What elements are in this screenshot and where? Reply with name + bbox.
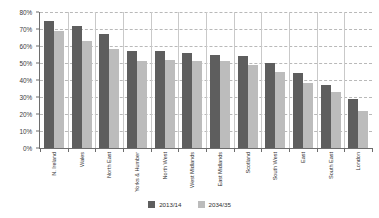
bar bbox=[72, 26, 82, 148]
x-axis-category-label: London bbox=[344, 152, 372, 196]
x-axis-category-label: South East bbox=[317, 152, 345, 196]
bar bbox=[348, 99, 358, 148]
y-axis-tick-label: 80% bbox=[20, 9, 33, 16]
x-axis-category-label: West Midlands bbox=[178, 152, 206, 196]
legend-label: 2034/35 bbox=[209, 201, 231, 208]
category-label-text: London bbox=[355, 152, 361, 170]
bar bbox=[238, 56, 248, 148]
category-label-text: South East bbox=[328, 152, 334, 179]
chart-legend: 2013/142034/35 bbox=[0, 197, 379, 211]
y-axis-tick-label: 40% bbox=[20, 77, 33, 84]
plot-area bbox=[40, 12, 372, 148]
x-axis-category-label: Yorks & Humber bbox=[123, 152, 151, 196]
legend-swatch-icon bbox=[198, 201, 205, 208]
bar-group bbox=[40, 12, 68, 148]
bar-chart: 80%70%60%50%40%30%20%10%0% N. IrelandWal… bbox=[0, 0, 379, 218]
bar bbox=[165, 60, 175, 148]
y-axis-line bbox=[39, 12, 40, 149]
bar bbox=[127, 51, 137, 148]
bar-groups bbox=[40, 12, 372, 148]
bar bbox=[358, 111, 368, 148]
x-axis-tick-mark bbox=[372, 148, 373, 152]
bar bbox=[331, 92, 341, 148]
bar-group bbox=[261, 12, 289, 148]
bar-group bbox=[123, 12, 151, 148]
category-label-text: South West bbox=[272, 152, 278, 180]
x-axis-category-label: North East bbox=[95, 152, 123, 196]
bar bbox=[99, 34, 109, 148]
legend-label: 2013/14 bbox=[159, 201, 181, 208]
y-axis-tick-label: 30% bbox=[20, 94, 33, 101]
category-label-text: Scotland bbox=[245, 152, 251, 173]
bar bbox=[275, 72, 285, 149]
bar bbox=[321, 85, 331, 148]
bar-group bbox=[289, 12, 317, 148]
category-label-text: Wales bbox=[79, 152, 85, 167]
bar bbox=[192, 61, 202, 148]
bar bbox=[44, 21, 54, 149]
bar-group bbox=[95, 12, 123, 148]
category-label-text: North West bbox=[162, 152, 168, 179]
bar-group bbox=[344, 12, 372, 148]
y-axis-labels: 80%70%60%50%40%30%20%10%0% bbox=[0, 12, 36, 148]
bar-group bbox=[317, 12, 345, 148]
legend-swatch-icon bbox=[148, 201, 155, 208]
x-axis-category-labels: N. IrelandWalesNorth EastYorks & HumberN… bbox=[40, 152, 372, 196]
y-axis-tick-label: 70% bbox=[20, 26, 33, 33]
bar bbox=[210, 55, 220, 149]
x-axis-category-label: North West bbox=[151, 152, 179, 196]
bar bbox=[182, 53, 192, 148]
category-label-text: Yorks & Humber bbox=[134, 152, 140, 192]
bar-group bbox=[68, 12, 96, 148]
category-label-text: North East bbox=[106, 152, 112, 178]
bar-group bbox=[234, 12, 262, 148]
x-axis-category-label: South West bbox=[261, 152, 289, 196]
bar bbox=[54, 31, 64, 148]
legend-item[interactable]: 2034/35 bbox=[198, 201, 231, 208]
bar-group bbox=[206, 12, 234, 148]
y-axis-tick-label: 0% bbox=[23, 145, 32, 152]
x-axis-category-label: N. Ireland bbox=[40, 152, 68, 196]
category-label-text: East bbox=[300, 152, 306, 163]
x-axis-category-label: East Midlands bbox=[206, 152, 234, 196]
bar bbox=[293, 73, 303, 148]
category-label-text: East Midlands bbox=[217, 152, 223, 186]
y-axis-tick-label: 10% bbox=[20, 128, 33, 135]
y-axis-tick-label: 60% bbox=[20, 43, 33, 50]
bar bbox=[137, 61, 147, 148]
x-axis-category-label: East bbox=[289, 152, 317, 196]
bar-group bbox=[178, 12, 206, 148]
category-label-text: West Midlands bbox=[189, 152, 195, 188]
bar bbox=[248, 65, 258, 148]
legend-item[interactable]: 2013/14 bbox=[148, 201, 181, 208]
bar bbox=[220, 61, 230, 148]
y-axis-tick-label: 50% bbox=[20, 60, 33, 67]
category-label-text: N. Ireland bbox=[51, 152, 57, 176]
bar bbox=[265, 63, 275, 148]
bar bbox=[82, 41, 92, 148]
bar-group bbox=[151, 12, 179, 148]
x-axis-category-label: Scotland bbox=[234, 152, 262, 196]
bar bbox=[155, 51, 165, 148]
y-axis-tick-label: 20% bbox=[20, 111, 33, 118]
bar bbox=[109, 49, 119, 148]
bar bbox=[303, 83, 313, 148]
x-axis-category-label: Wales bbox=[68, 152, 96, 196]
